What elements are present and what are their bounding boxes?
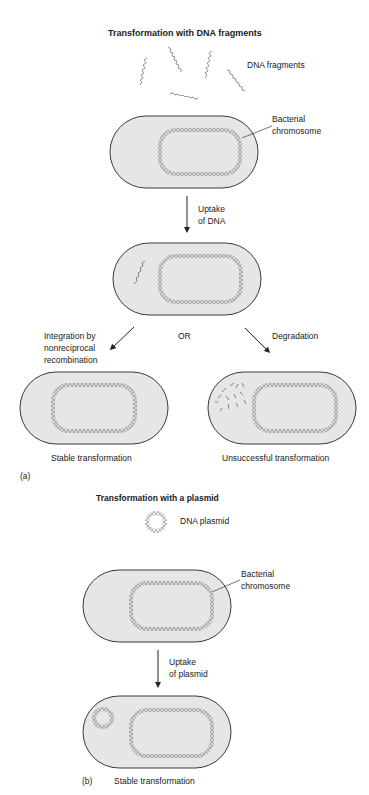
chromosome-label-a: Bacterial chromosome (272, 113, 321, 137)
bacterial-cell-unsuccessful (208, 372, 356, 444)
dna-fragments-label: DNA fragments (247, 59, 305, 71)
stable-transformation-label-a: Stable transformation (51, 452, 132, 464)
unsuccessful-transformation-label: Unsuccessful transformation (222, 452, 329, 464)
dna-plasmid-icon (147, 513, 165, 531)
bacterial-cell-before-plasmid (83, 570, 240, 642)
panel-b-marker: (b) (82, 775, 92, 787)
panel-b-title: Transformation with a plasmid (96, 493, 219, 503)
bacterial-cell-initial (110, 116, 272, 188)
dna-fragments-icon (140, 47, 245, 99)
degradation-label: Degradation (272, 330, 318, 342)
bacterial-cell-with-fragment (113, 243, 261, 315)
bacterial-cell-with-plasmid (83, 696, 231, 768)
uptake-plasmid-label: Uptake of plasmid (169, 656, 208, 680)
panel-a-title: Transformation with DNA fragments (108, 28, 262, 38)
chromosome-label-b: Bacterial chromosome (241, 568, 290, 592)
integration-label: Integration by nonreciprocal recombinati… (44, 330, 97, 366)
stable-transformation-label-b: Stable transformation (114, 775, 195, 787)
or-label: OR (178, 330, 191, 342)
panel-a-marker: (a) (20, 470, 30, 482)
dna-plasmid-label: DNA plasmid (180, 515, 229, 527)
uptake-dna-label: Uptake of DNA (198, 203, 225, 227)
bacterial-cell-stable (20, 372, 168, 444)
